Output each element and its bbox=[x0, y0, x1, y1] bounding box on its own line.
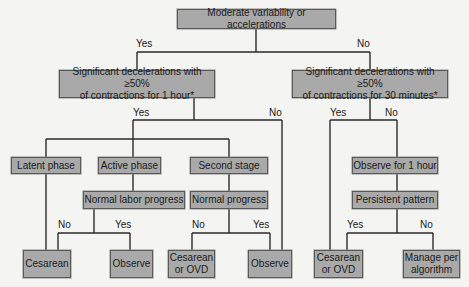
edge-label-no: No bbox=[192, 219, 205, 230]
node-decel-30-minutes: Significant decelerations with ≥50% of c… bbox=[292, 70, 448, 98]
edge-label-yes: Yes bbox=[133, 107, 149, 118]
edge-label-no: No bbox=[58, 219, 71, 230]
node-normal-progress: Normal progress bbox=[190, 191, 268, 209]
node-cesarean-or-ovd: Cesarean or OVD bbox=[168, 250, 215, 278]
edge-label-yes: Yes bbox=[136, 38, 152, 49]
edge-label-no: No bbox=[385, 107, 398, 118]
edge-label-no: No bbox=[269, 107, 282, 118]
node-persistent-pattern: Persistent pattern bbox=[352, 191, 438, 209]
node-observe: Observe bbox=[110, 250, 153, 278]
node-cesarean: Cesarean bbox=[23, 250, 71, 278]
node-observe: Observe bbox=[248, 250, 292, 278]
edge-label-yes: Yes bbox=[253, 219, 269, 230]
node-manage-per-algorithm: Manage per algorithm bbox=[403, 250, 460, 278]
node-cesarean-or-ovd: Cesarean or OVD bbox=[314, 250, 363, 278]
edge-label-no: No bbox=[357, 38, 370, 49]
node-normal-labor-progress: Normal labor progress bbox=[83, 191, 185, 209]
edge-label-yes: Yes bbox=[347, 219, 363, 230]
node-root: Moderate variability or accelerations bbox=[177, 9, 336, 29]
node-observe-1-hour: Observe for 1 hour bbox=[352, 157, 438, 174]
node-decel-1-hour: Significant decelerations with ≥50% of c… bbox=[59, 70, 215, 98]
node-active-phase: Active phase bbox=[98, 157, 161, 174]
connector-lines bbox=[0, 0, 469, 287]
node-latent-phase: Latent phase bbox=[11, 157, 81, 174]
edge-label-yes: Yes bbox=[330, 107, 346, 118]
node-second-stage: Second stage bbox=[190, 157, 268, 174]
edge-label-yes: Yes bbox=[115, 219, 131, 230]
edge-label-no: No bbox=[420, 219, 433, 230]
